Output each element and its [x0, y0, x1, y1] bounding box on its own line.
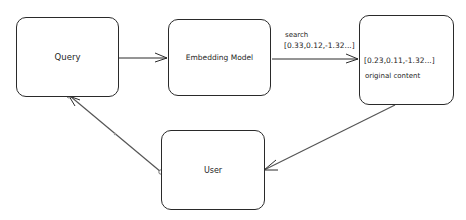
embedding-model-label: Embedding Model: [186, 53, 253, 62]
vector-store-node[interactable]: [0.23,0.11,-1.32...] original content: [359, 15, 454, 105]
query-node[interactable]: Query: [16, 17, 119, 97]
stored-vector-text: [0.23,0.11,-1.32...]: [364, 56, 435, 65]
search-edge-label: search: [285, 31, 308, 39]
user-label: User: [204, 166, 222, 175]
arrow-store-to-user: [264, 105, 395, 170]
user-node[interactable]: User: [161, 130, 265, 210]
embedding-model-node[interactable]: Embedding Model: [168, 19, 271, 96]
arrow-user-to-query: [67, 94, 163, 174]
search-vector-label: [0.33,0.12,-1.32...]: [284, 41, 355, 50]
arrow-embedding-to-store: [272, 54, 358, 63]
arrow-query-to-embedding: [118, 53, 167, 62]
query-label: Query: [55, 52, 81, 62]
original-content-text: original content: [365, 72, 420, 80]
